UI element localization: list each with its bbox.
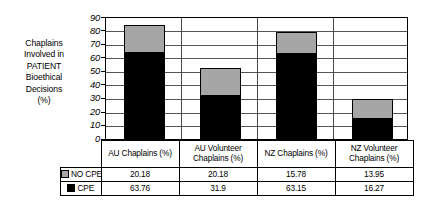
bar-segment-cpe-nz-chaplains	[276, 53, 317, 140]
cell-nocpe-au-volunteer: 20.18	[179, 168, 257, 182]
legend-item-cpe: CPE	[61, 182, 102, 196]
column-header-au-volunteer-line-2: Chaplains (%)	[180, 154, 257, 164]
cell-nocpe-nz-chaplains: 15.78	[257, 168, 335, 182]
data-table: AU Chaplains (%) AU Volunteer Chaplains …	[60, 140, 414, 196]
y-tick-label-90: 90	[74, 13, 100, 22]
bar-segment-cpe-nz-volunteer	[352, 118, 393, 140]
y-tick-label-40: 40	[74, 80, 100, 89]
cell-cpe-nz-chaplains: 63.15	[257, 182, 335, 196]
category-separator-1	[181, 18, 182, 139]
legend-label-nocpe: NO CPE	[71, 169, 102, 179]
table-row: NO CPE 20.18 20.18 15.78 13.95	[61, 168, 414, 182]
plot-area	[105, 17, 408, 140]
y-tick-label-70: 70	[74, 39, 100, 48]
y-tick-label-10: 10	[74, 120, 100, 129]
cell-cpe-au-volunteer: 31.9	[179, 182, 257, 196]
y-tick-label-20: 20	[74, 107, 100, 116]
column-header-au-chaplains: AU Chaplains (%)	[101, 141, 179, 168]
bar-segment-cpe-au-chaplains	[124, 52, 165, 140]
cell-nocpe-au-chaplains: 20.18	[101, 168, 179, 182]
column-header-nz-chaplains-line-1: NZ Chaplains (%)	[258, 149, 335, 159]
legend-item-nocpe: NO CPE	[61, 168, 102, 182]
table-row: CPE 63.76 31.9 63.15 16.27	[61, 182, 414, 196]
column-header-nz-chaplains: NZ Chaplains (%)	[257, 141, 335, 168]
table-corner-cell	[61, 141, 102, 168]
bar-segment-nocpe-au-volunteer	[200, 68, 241, 96]
y-tick-label-50: 50	[74, 66, 100, 75]
cell-cpe-nz-volunteer: 16.27	[335, 182, 413, 196]
column-header-nz-volunteer-chaplains: NZ Volunteer Chaplains (%)	[335, 141, 413, 168]
bar-segment-nocpe-au-chaplains	[124, 25, 165, 53]
legend-label-cpe: CPE	[77, 183, 94, 193]
category-separator-2	[257, 18, 258, 139]
cell-cpe-au-chaplains: 63.76	[101, 182, 179, 196]
table-header-row: AU Chaplains (%) AU Volunteer Chaplains …	[61, 141, 414, 168]
bar-segment-nocpe-nz-volunteer	[352, 99, 393, 119]
cell-nocpe-nz-volunteer: 13.95	[335, 168, 413, 182]
y-tick-label-80: 80	[74, 26, 100, 35]
bar-segment-nocpe-nz-chaplains	[276, 32, 317, 54]
column-header-au-chaplains-line-1: AU Chaplains (%)	[102, 149, 179, 159]
legend-swatch-nocpe-icon	[61, 170, 69, 178]
legend-swatch-cpe-icon	[67, 184, 75, 192]
bar-segment-cpe-au-volunteer	[200, 95, 241, 140]
chart-figure: Chaplains Involved in PATIENT Bioethical…	[0, 0, 423, 209]
category-separator-3	[333, 18, 334, 139]
column-header-nz-volunteer-line-2: Chaplains (%)	[336, 154, 413, 164]
y-tick-label-60: 60	[74, 53, 100, 62]
y-tick-label-30: 30	[74, 93, 100, 102]
column-header-au-volunteer-chaplains: AU Volunteer Chaplains (%)	[179, 141, 257, 168]
